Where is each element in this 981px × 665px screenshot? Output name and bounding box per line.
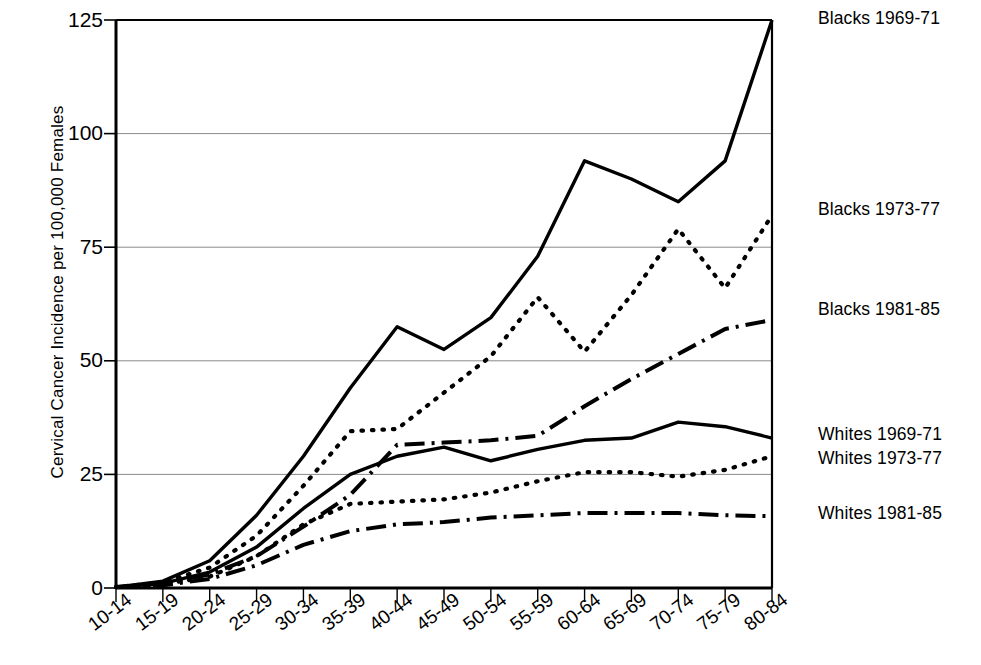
legend-label-whites-1973-77: Whites 1973-77 xyxy=(818,448,942,469)
axis-frame xyxy=(116,20,772,588)
legend-label-whites-1969-71: Whites 1969-71 xyxy=(818,424,942,445)
plot-area xyxy=(0,0,981,665)
series-line-whites-1969-71 xyxy=(116,422,772,587)
chart-figure: Cervical Cancer Incidence per 100,000 Fe… xyxy=(0,0,981,665)
series-lines xyxy=(116,20,772,587)
y-tick-marks xyxy=(104,20,116,588)
gridlines xyxy=(116,20,772,474)
legend-label-blacks-1981-85: Blacks 1981-85 xyxy=(818,299,940,320)
series-line-blacks-1969-71 xyxy=(116,20,772,587)
legend-label-blacks-1969-71: Blacks 1969-71 xyxy=(818,8,940,29)
legend-label-whites-1981-85: Whites 1981-85 xyxy=(818,503,942,524)
series-line-blacks-1981-85 xyxy=(116,320,772,587)
legend-label-blacks-1973-77: Blacks 1973-77 xyxy=(818,199,940,220)
series-line-blacks-1973-77 xyxy=(116,215,772,587)
series-line-whites-1981-85 xyxy=(116,513,772,587)
